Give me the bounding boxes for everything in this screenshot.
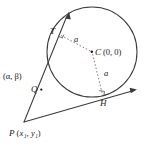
label-tangent-point-top: T <box>50 26 56 36</box>
label-point-q: Q <box>31 84 38 94</box>
label-external-point: P <box>8 128 15 138</box>
tangent-lower-arrowhead <box>130 88 137 94</box>
geometry-diagram: T a a C (0, 0) (α, β) Q H P ( x 1 , y 1 … <box>0 0 148 145</box>
label-radius-upper: a <box>74 34 78 44</box>
diagram-canvas: T a a C (0, 0) (α, β) Q H P ( x 1 , y 1 … <box>0 0 148 145</box>
label-tangent-point-bottom: H <box>99 98 107 108</box>
label-external-point-comma: , <box>27 128 29 138</box>
tangent-line-lower <box>24 91 133 122</box>
label-point-q-coords: (α, β) <box>3 71 22 81</box>
label-center-coords: (0, 0) <box>103 47 122 57</box>
radius-segment-lower <box>93 54 103 95</box>
tangent-line-upper <box>24 17 67 122</box>
center-point-dot <box>91 51 94 54</box>
label-radius-lower: a <box>104 68 108 78</box>
point-q-dot <box>40 88 42 90</box>
label-external-point-x: x <box>19 128 24 138</box>
label-center-point: C <box>95 47 102 57</box>
label-external-point-paren-close: ) <box>38 128 41 138</box>
